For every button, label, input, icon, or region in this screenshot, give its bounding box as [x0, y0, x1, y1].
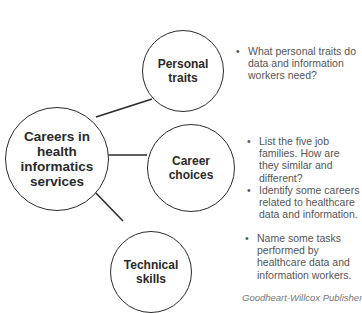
central-node-line: services	[21, 174, 94, 189]
node-personal-traits: Personal traits	[142, 30, 224, 112]
publisher-credit: Goodheart-Willcox Publisher	[242, 292, 362, 303]
node-label-line: choices	[169, 168, 214, 182]
bullets-technical-skills: Name some tasks performed by healthcare …	[245, 232, 355, 281]
bullets-personal-traits: What personal traits do data and informa…	[236, 45, 356, 82]
connector-personal-traits	[96, 99, 152, 117]
central-node-line: health	[21, 144, 94, 159]
central-node-line: Careers in	[21, 129, 94, 144]
bullet-item: Name some tasks performed by healthcare …	[245, 232, 355, 281]
node-label-line: Technical	[124, 258, 178, 272]
connector-technical-skills	[92, 189, 123, 221]
bullet-item: Identify some careers related to healthc…	[247, 184, 362, 221]
bullet-item: List the five job families. How are they…	[247, 135, 362, 184]
node-label-line: Personal	[158, 57, 209, 71]
central-node: Careers in health informatics services	[5, 107, 109, 211]
node-technical-skills: Technical skills	[110, 231, 192, 313]
node-label-line: skills	[124, 272, 178, 286]
node-career-choices: Career choices	[147, 124, 235, 212]
bullets-career-choices: List the five job families. How are they…	[247, 135, 362, 220]
central-node-line: informatics	[21, 159, 94, 174]
node-label-line: Career	[169, 154, 214, 168]
bullet-item: What personal traits do data and informa…	[236, 45, 356, 82]
node-label-line: traits	[158, 71, 209, 85]
